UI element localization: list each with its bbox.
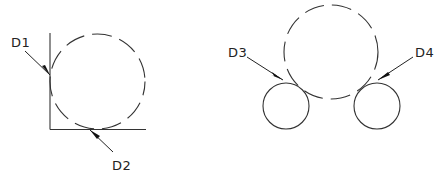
d1-arrowhead [42,65,50,75]
solid-circle-right [354,83,400,129]
solid-circle-left [263,83,309,129]
dashed-circle-left [50,34,145,129]
label-d3: D3 [228,45,247,60]
d4-arrowhead [378,72,390,80]
label-d2: D2 [112,158,131,173]
right-figure: D3 D4 [228,5,434,129]
left-figure: D1 D2 [11,33,146,173]
d1-leader [25,51,50,75]
label-d4: D4 [415,45,434,60]
dashed-circle-right [284,5,378,99]
label-d1: D1 [11,35,30,50]
tangent-circle-diagram: D1 D2 D3 D4 [0,0,434,175]
d3-arrowhead [271,72,283,80]
